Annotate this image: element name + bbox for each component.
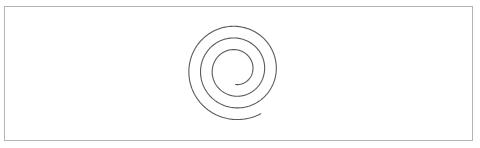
figure-canvas	[0, 0, 480, 148]
canvas-background	[0, 0, 480, 148]
figure-svg	[0, 0, 480, 148]
